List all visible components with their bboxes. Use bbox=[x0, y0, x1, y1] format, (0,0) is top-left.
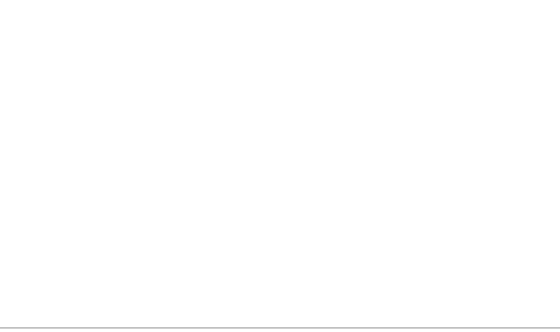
stage-arrows bbox=[0, 0, 560, 70]
bottom-divider bbox=[0, 327, 560, 329]
